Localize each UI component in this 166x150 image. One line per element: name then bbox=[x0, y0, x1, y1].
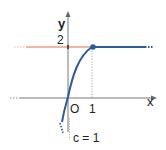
origin-label: O bbox=[70, 102, 79, 116]
y-axis-label: y bbox=[58, 16, 66, 31]
tick-y2-label: 2 bbox=[57, 33, 64, 47]
curve-dotted-ext bbox=[60, 123, 63, 133]
annotation-c: c = 1 bbox=[73, 131, 100, 145]
x-axis-label: x bbox=[147, 94, 154, 109]
y-axis-arrow-icon bbox=[66, 11, 71, 17]
tick-x1-label: 1 bbox=[89, 102, 96, 116]
point-marker bbox=[90, 44, 96, 50]
function-graph: y 2 O 1 x c = 1 bbox=[0, 0, 166, 150]
